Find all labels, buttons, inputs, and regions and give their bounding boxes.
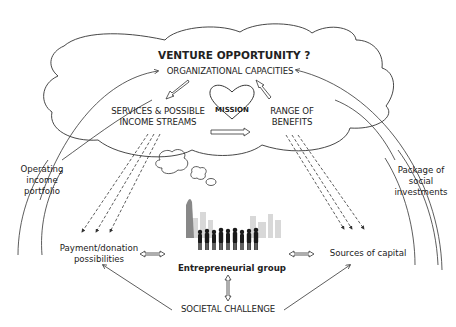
operating-income-label-line2: income [12,175,72,186]
services-label-line1: SERVICES & POSSIBLE [108,106,208,117]
package-social-label-line2: social [386,176,456,187]
sources-of-capital-label: Sources of capital [328,248,408,259]
entrepreneurial-group-label: Entrepreneurial group [178,263,278,274]
societal-challenge-label: SOCIETAL CHALLENGE [170,304,286,315]
package-social-label-line3: investments [386,187,456,198]
venture-cloud [44,24,394,157]
dashed-arrows-services-to-payment [82,134,160,232]
package-social-label-line1: Package of [386,165,456,176]
benefits-label-line1: RANGE OF [262,106,322,117]
operating-income-label-line1: Operating [12,164,72,175]
challenge-to-sources-arrow [284,265,350,310]
benefits-label-line2: BENEFITS [262,117,322,128]
challenge-to-payment-arrow [103,265,172,310]
entrepreneurial-group-image [186,199,281,250]
right-arc-inner [335,100,395,160]
venture-opportunity-title: VENTURE OPPORTUNITY ? [158,50,298,61]
payment-label-line2: possibilities [54,254,144,265]
operating-income-label-line3: portfolio [12,186,72,197]
services-label-line2: INCOME STREAMS [108,117,208,128]
organizational-capacities-label: ORGANIZATIONAL CAPACITIES [150,66,310,77]
dashed-arrows-benefits-to-sources [286,135,364,229]
thought-bubbles [156,150,216,186]
payment-label-line1: Payment/donation [54,243,144,254]
mission-label: MISSION [214,105,250,116]
